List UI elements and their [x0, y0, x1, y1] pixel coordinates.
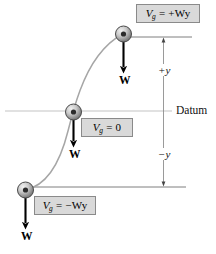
label-vg-below-text: Vg = −Wy	[43, 199, 88, 213]
dimension-line-vertical	[162, 38, 166, 187]
label-vg-above-text: Vg = +Wy	[146, 7, 191, 21]
label-vg-below: Vg = −Wy	[34, 196, 96, 215]
potential-energy-diagram: Vg = +Wy Vg = 0 Vg = −Wy +y −y Datum W W…	[0, 0, 216, 254]
dimension-label-positive: +y	[156, 64, 172, 76]
weight-label-below: W	[21, 230, 33, 242]
label-vg-datum-text: Vg = 0	[93, 121, 121, 135]
weight-label-above: W	[119, 74, 131, 86]
dimension-label-negative: −y	[156, 148, 172, 160]
label-vg-datum: Vg = 0	[81, 118, 133, 137]
particle-sphere-below	[18, 182, 34, 198]
datum-label: Datum	[176, 104, 207, 116]
particle-sphere-datum	[66, 104, 82, 120]
particle-sphere-above	[116, 26, 132, 42]
label-vg-above: Vg = +Wy	[136, 4, 200, 23]
weight-label-datum: W	[69, 148, 81, 160]
